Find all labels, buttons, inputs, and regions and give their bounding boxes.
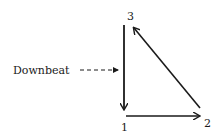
conducting-diagram: 3 1 2 Downbeat <box>0 0 221 139</box>
beat-label-3: 3 <box>127 10 134 23</box>
beat2-to-beat3-arrow <box>134 28 200 108</box>
downbeat-label: Downbeat <box>13 64 70 77</box>
beat-label-1: 1 <box>121 121 128 134</box>
beat-label-2: 2 <box>204 117 211 130</box>
